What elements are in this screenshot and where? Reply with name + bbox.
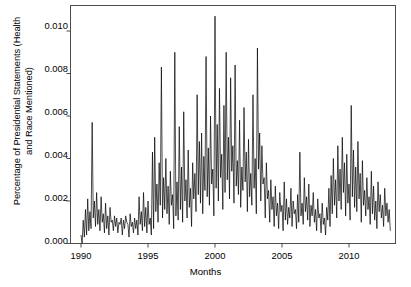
x-tick-label: 2000 bbox=[193, 250, 237, 261]
x-tick-label: 2010 bbox=[327, 250, 371, 261]
plot-canvas bbox=[0, 0, 411, 287]
plot-frame bbox=[71, 6, 396, 244]
x-tick-label: 2005 bbox=[260, 250, 304, 261]
x-axis-title: Months bbox=[0, 266, 411, 277]
chart-figure: Percentage of Presidential Statements (H… bbox=[0, 0, 411, 287]
data-line bbox=[81, 16, 390, 243]
x-tick-label: 1995 bbox=[126, 250, 170, 261]
x-tick-label: 1990 bbox=[59, 250, 103, 261]
